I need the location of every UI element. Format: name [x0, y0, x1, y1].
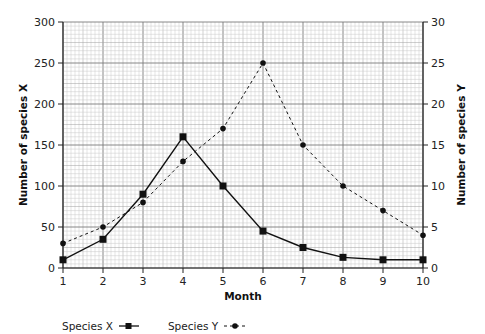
legend-item-species-y: Species Y [168, 320, 247, 332]
legend-item-species-x: Species X [62, 320, 140, 332]
x-tick-label: 10 [416, 275, 430, 288]
x-tick-label: 7 [300, 275, 307, 288]
species-y-circle-marker [300, 142, 306, 148]
left-y-tick-label: 250 [34, 57, 55, 70]
right-y-axis-ticks: 051015202530 [423, 16, 445, 275]
circle-marker-dashed-line-icon [223, 321, 247, 331]
x-tick-label: 2 [100, 275, 107, 288]
x-tick-label: 3 [140, 275, 147, 288]
line-chart: 12345678910 050100150200250300 051015202… [0, 0, 485, 334]
species-y-circle-marker [340, 183, 346, 189]
right-y-tick-label: 15 [431, 139, 445, 152]
right-y-tick-label: 30 [431, 16, 445, 29]
species-x-square-marker [100, 236, 107, 243]
left-y-axis-title: Number of species X [17, 84, 29, 206]
right-y-axis-title: Number of species Y [455, 84, 467, 206]
right-y-tick-label: 10 [431, 180, 445, 193]
right-y-tick-label: 20 [431, 98, 445, 111]
x-tick-label: 4 [180, 275, 187, 288]
species-x-square-marker [60, 256, 67, 263]
species-x-square-marker [420, 256, 427, 263]
square-marker-solid-line-icon [118, 321, 140, 331]
species-x-square-marker [380, 256, 387, 263]
left-y-tick-label: 50 [41, 221, 55, 234]
species-x-square-marker [300, 244, 307, 251]
x-axis-title: Month [224, 290, 262, 302]
species-y-circle-marker [220, 126, 226, 132]
x-tick-label: 1 [60, 275, 67, 288]
left-y-tick-label: 100 [34, 180, 55, 193]
right-y-tick-label: 5 [431, 221, 438, 234]
species-y-circle-marker [380, 208, 386, 214]
legend-label-species-y: Species Y [168, 320, 218, 332]
x-tick-label: 8 [340, 275, 347, 288]
left-y-axis-ticks: 050100150200250300 [34, 16, 63, 275]
species-x-square-marker [140, 191, 147, 198]
species-y-circle-marker [260, 60, 266, 66]
x-tick-label: 5 [220, 275, 227, 288]
right-y-tick-label: 25 [431, 57, 445, 70]
x-axis-ticks: 12345678910 [60, 268, 431, 288]
species-y-circle-marker [140, 200, 146, 206]
left-y-tick-label: 0 [48, 262, 55, 275]
species-y-circle-marker [60, 241, 66, 247]
x-tick-label: 6 [260, 275, 267, 288]
left-y-tick-label: 200 [34, 98, 55, 111]
graph-paper-grid [63, 22, 423, 268]
species-y-circle-marker [100, 224, 106, 230]
legend-label-species-x: Species X [62, 320, 113, 332]
species-y-circle-marker [180, 159, 186, 165]
species-x-square-marker [220, 183, 227, 190]
species-x-square-marker [180, 133, 187, 140]
legend: Species X Species Y [62, 318, 275, 334]
right-y-tick-label: 0 [431, 262, 438, 275]
species-x-square-marker [260, 228, 267, 235]
left-y-tick-label: 300 [34, 16, 55, 29]
left-y-tick-label: 150 [34, 139, 55, 152]
species-x-square-marker [340, 254, 347, 261]
x-tick-label: 9 [380, 275, 387, 288]
species-y-circle-marker [420, 232, 426, 238]
